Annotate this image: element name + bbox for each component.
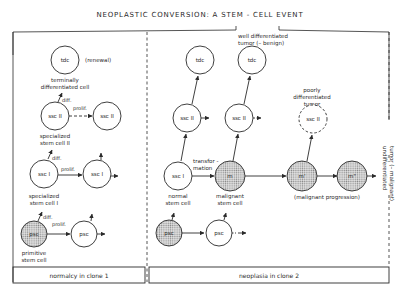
svg-text:neoplasia in clone 2: neoplasia in clone 2: [239, 272, 299, 280]
label-normal-stem-cell: stem cell: [166, 200, 191, 206]
label-prolif-2: prolif.: [73, 105, 87, 112]
cell-ssc2-b: ssc II: [225, 104, 253, 132]
svg-text:psc: psc: [79, 231, 88, 238]
caption-normalcy: normalcy in clone 1: [13, 267, 145, 283]
cell-tdc-a: tdc: [186, 46, 214, 74]
cell-m-prime-shaded: m': [287, 161, 317, 191]
cell-tdc-b: tdc: [238, 46, 266, 74]
label-terminally: terminally: [51, 77, 80, 84]
label-tumor-benign: tumor (– benign): [238, 40, 284, 47]
svg-text:tdc: tdc: [248, 57, 257, 63]
cell-ssc1-b: ssc I: [83, 160, 111, 188]
label-differentiated: differentiated: [293, 94, 330, 100]
label-normal: normal: [168, 193, 188, 199]
svg-text:ssc II: ssc II: [100, 113, 114, 119]
label-transformation: transfor -: [193, 158, 218, 164]
label-malignant: malignant: [216, 193, 245, 200]
svg-text:ssc II: ssc II: [232, 115, 246, 121]
svg-text:normalcy in clone 1: normalcy in clone 1: [49, 272, 108, 280]
label-prolif-1: prolif.: [61, 166, 75, 173]
svg-text:ssc II: ssc II: [180, 115, 194, 121]
cell-ssc1-a: ssc I: [30, 160, 58, 188]
svg-text:psc: psc: [164, 230, 173, 237]
cell-ssc2-b: ssc II: [93, 102, 121, 130]
svg-text:psc: psc: [29, 231, 38, 238]
cell-m-double-prime-shaded: m": [337, 161, 367, 191]
right-panel: well differentiated tumor (– benign) tdc…: [156, 33, 395, 246]
cell-psc-a-shaded: psc: [156, 220, 182, 246]
svg-text:m': m': [299, 173, 306, 179]
label-diff-0: diff.: [43, 214, 53, 220]
cell-ssc1: ssc I: [164, 162, 192, 190]
cell-m-shaded: m: [215, 161, 245, 191]
label-well-differentiated: well differentiated: [238, 33, 288, 39]
svg-text:ssc I: ssc I: [38, 171, 51, 177]
diagram-canvas: NEOPLASTIC CONVERSION: A STEM - CELL EVE…: [0, 0, 400, 294]
label-poorly: poorly: [303, 87, 321, 94]
svg-text:tdc: tdc: [61, 57, 70, 63]
svg-text:undifferentiated: undifferentiated: [382, 146, 388, 190]
label-primitive: primitive: [22, 250, 47, 257]
label-differentiated-cell: differentiated cell: [41, 84, 90, 90]
cell-ssc2-a: ssc II: [173, 104, 201, 132]
cell-ssc2-a: ssc II: [41, 102, 69, 130]
cell-psc-a-shaded: psc: [21, 221, 47, 247]
label-specialized-2: specialized: [40, 133, 70, 140]
label-stem-cell-2: stem cell II: [40, 140, 70, 146]
cell-psc-b: psc: [206, 220, 232, 246]
diagram-title: NEOPLASTIC CONVERSION: A STEM - CELL EVE…: [97, 11, 304, 19]
label-undifferentiated-tumor: undifferentiated tumor (– malignant): [382, 146, 395, 201]
label-mation: mation: [193, 165, 213, 171]
svg-text:m": m": [348, 173, 356, 179]
label-malignant-progression: (malignant progression): [294, 194, 360, 201]
svg-text:ssc I: ssc I: [91, 171, 104, 177]
label-malignant-stem-cell: stem cell: [218, 200, 243, 206]
label-renewal: (renewal): [85, 57, 111, 63]
svg-text:tumor (– malignant): tumor (– malignant): [388, 146, 395, 201]
svg-text:m: m: [227, 173, 232, 179]
cell-ssc2-c-dashed: ssc II: [299, 105, 327, 133]
label-specialized-1: specialized: [29, 193, 59, 200]
label-diff-1: diff.: [52, 155, 62, 161]
label-stem-cell-1: stem cell I: [30, 200, 59, 206]
label-diff-2: diff.: [62, 97, 72, 103]
cell-tdc: tdc: [51, 46, 79, 74]
svg-text:psc: psc: [214, 230, 223, 237]
svg-text:tdc: tdc: [196, 57, 205, 63]
cell-psc-b: psc: [71, 221, 97, 247]
left-panel: tdc (renewal) terminally differentiated …: [21, 46, 121, 263]
svg-text:ssc II: ssc II: [306, 116, 320, 122]
caption-neoplasia: neoplasia in clone 2: [149, 267, 389, 283]
label-stem-cell-0: stem cell: [22, 257, 47, 263]
svg-text:ssc II: ssc II: [48, 113, 62, 119]
svg-text:ssc I: ssc I: [172, 173, 185, 179]
label-prolif-0: prolif.: [52, 221, 66, 228]
